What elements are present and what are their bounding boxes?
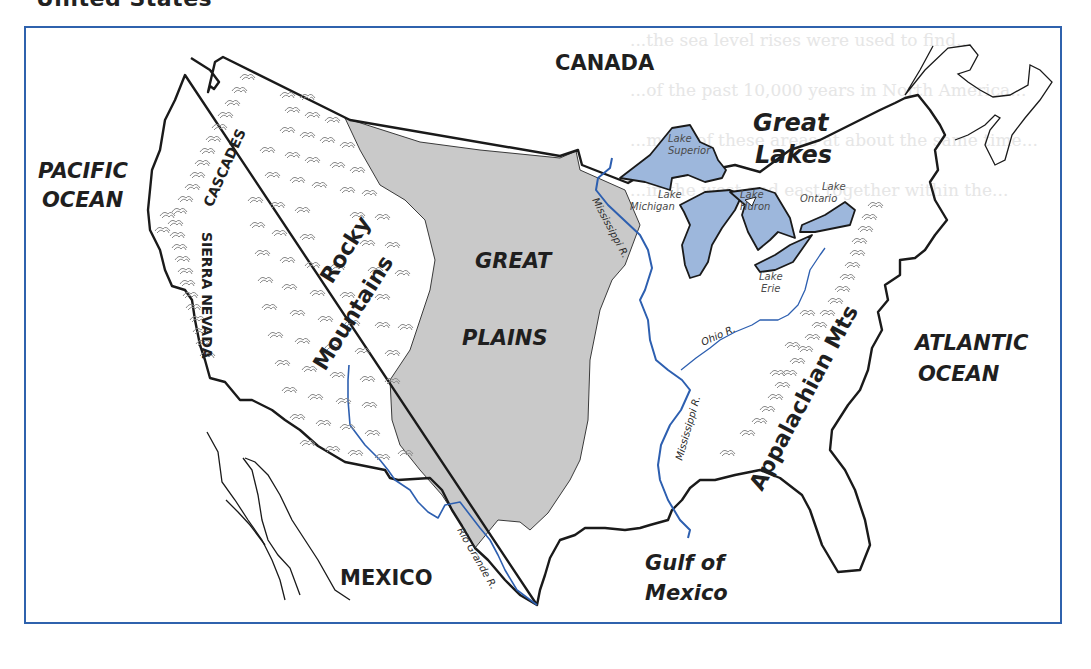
label-atlantic-ocean-2: OCEAN <box>918 362 1000 386</box>
label-atlantic-ocean-1: ATLANTIC <box>913 331 1029 355</box>
label-canada: CANADA <box>555 51 655 75</box>
label-great-lakes-2: Lakes <box>755 141 832 169</box>
us-physical-map: CANADA MEXICO PACIFIC OCEAN ATLANTIC OCE… <box>0 0 1091 669</box>
label-lake-erie-2: Erie <box>761 283 780 294</box>
label-mexico: MEXICO <box>340 566 433 590</box>
label-mississippi-river-lower: Mississippi R. <box>673 395 702 462</box>
label-lake-michigan-1: Lake <box>658 189 682 200</box>
label-appalachian-mountains: Appalachian Mts <box>744 301 863 494</box>
label-great-plains-1: GREAT <box>475 249 553 273</box>
label-lake-erie-1: Lake <box>759 271 783 282</box>
label-pacific-ocean-1: PACIFIC <box>38 159 128 183</box>
label-lake-ontario-2: Ontario <box>800 193 837 204</box>
label-lake-huron-2: Huron <box>740 201 770 212</box>
label-sierra-nevada: SIERRA NEVADA <box>199 232 215 359</box>
label-pacific-ocean-2: OCEAN <box>42 188 124 212</box>
label-gulf-of-mexico-2: Mexico <box>645 581 728 605</box>
label-great-plains-2: PLAINS <box>462 326 548 350</box>
label-great-lakes-1: Great <box>753 109 830 137</box>
label-lake-michigan-2: Michigan <box>630 201 675 212</box>
lake-michigan <box>680 190 742 278</box>
label-lake-ontario-1: Lake <box>822 181 846 192</box>
label-lake-huron-1: Lake <box>740 189 764 200</box>
label-gulf-of-mexico-1: Gulf of <box>645 551 727 575</box>
label-lake-superior-1: Lake <box>668 133 692 144</box>
lake-ontario <box>800 202 855 232</box>
mexico-outline <box>207 432 350 600</box>
label-lake-superior-2: Superior <box>668 145 711 156</box>
label-ohio-river: Ohio R. <box>699 323 737 348</box>
